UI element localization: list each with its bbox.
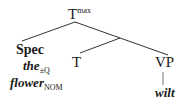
spec-label: Spec bbox=[16, 42, 44, 57]
root-node: Tmax bbox=[68, 7, 91, 22]
spec-word2-text: flower bbox=[10, 75, 44, 90]
head-node: T bbox=[72, 55, 81, 70]
spec-word2-sub: NOM bbox=[44, 83, 63, 92]
branch-mid-t bbox=[80, 38, 120, 53]
vp-node: VP bbox=[155, 55, 174, 70]
root-label: T bbox=[68, 6, 77, 22]
spec-word1-sub: ±Q bbox=[40, 66, 50, 75]
vp-label: VP bbox=[155, 54, 174, 70]
head-label: T bbox=[72, 54, 81, 70]
spec-word2: flowerNOM bbox=[10, 76, 63, 89]
branch-root-spec bbox=[22, 22, 75, 41]
vp-child-text: wilt bbox=[155, 85, 175, 100]
vp-child: wilt bbox=[155, 86, 175, 99]
spec-word1: the±Q bbox=[23, 59, 50, 72]
spec-node: Spec bbox=[16, 42, 44, 57]
root-superscript: max bbox=[77, 6, 91, 15]
spec-word1-text: the bbox=[23, 58, 40, 73]
